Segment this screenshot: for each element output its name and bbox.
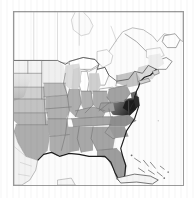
state-fill-arkansas: [46, 119, 70, 137]
island-dot-b: [163, 177, 165, 179]
state-fill-iowa: [44, 83, 68, 97]
state-fill-kansas: [14, 99, 46, 113]
choropleth-map-svg: [14, 12, 183, 185]
ocean-speck: [158, 120, 159, 121]
map-frame: [13, 11, 184, 186]
island-dot-c: [167, 171, 169, 173]
map-figure: Eastern United States Grayscale intensit…: [0, 0, 194, 198]
state-fill-oklahoma: [14, 113, 48, 125]
island-dot-a: [131, 154, 133, 156]
